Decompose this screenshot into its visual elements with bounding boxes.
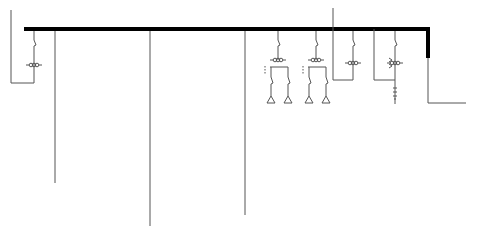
switch-icon — [395, 40, 397, 46]
load-triangle-icon — [305, 96, 313, 103]
switch-icon — [34, 40, 36, 46]
feeder-6 — [303, 31, 330, 103]
feeder-1 — [11, 10, 42, 83]
load-triangle-icon — [284, 96, 292, 103]
switch-icon — [353, 40, 355, 46]
single-line-diagram — [0, 0, 478, 231]
feeder-7 — [333, 8, 361, 80]
switch-icon — [278, 40, 280, 46]
feeder-8 — [374, 29, 403, 104]
switch-icon — [316, 40, 318, 46]
feeder-5 — [265, 31, 292, 103]
load-triangle-icon — [322, 96, 330, 103]
load-triangle-icon — [267, 96, 275, 103]
feeder-9 — [428, 58, 466, 103]
